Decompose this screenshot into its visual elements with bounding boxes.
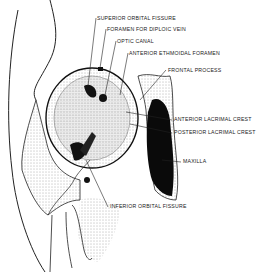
orbit-diagram: SUPERIOR ORBITAL FISSURE FORAMEN FOR DIP… (0, 0, 263, 274)
label-posterior-lacrimal-crest: POSTERIOR LACRIMAL CREST (174, 129, 256, 135)
label-optic-canal: OPTIC CANAL (117, 38, 154, 44)
label-frontal-process: FRONTAL PROCESS (168, 67, 221, 73)
label-superior-orbital-fissure: SUPERIOR ORBITAL FISSURE (97, 15, 176, 21)
label-foramen-for-diploic-vein: FORAMEN FOR DIPLOIC VEIN (107, 26, 186, 32)
label-anterior-ethmoidal-foramen: ANTERIOR ETHMOIDAL FORAMEN (129, 50, 220, 56)
label-inferior-orbital-fissure: INFERIOR ORBITAL FISSURE (110, 203, 187, 209)
label-maxilla: MAXILLA (183, 158, 206, 164)
label-anterior-lacrimal-crest: ANTERIOR LACRIMAL CREST (174, 116, 252, 122)
